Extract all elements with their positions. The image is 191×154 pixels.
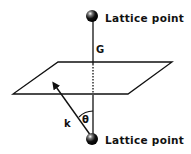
top-lattice-point-label: Lattice point [105,12,184,24]
k-vector-arrow [54,84,91,136]
bragg-diagram: Lattice point Lattice point G k θ [0,0,191,154]
k-vector-label: k [64,118,71,129]
angle-label: θ [82,114,89,125]
bottom-lattice-point-icon [86,133,98,145]
g-vector-label: G [96,44,104,55]
top-lattice-point-icon [86,10,98,22]
bottom-lattice-point-label: Lattice point [105,134,184,146]
